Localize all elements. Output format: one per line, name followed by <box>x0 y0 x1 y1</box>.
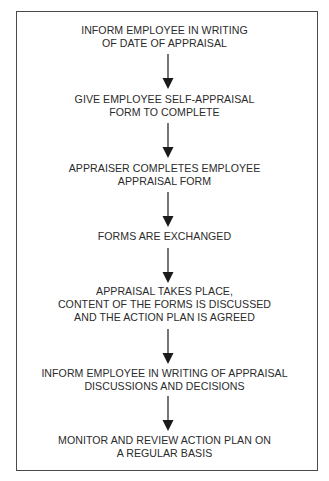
flowchart-step-inform-date: INFORM EMPLOYEE IN WRITING OF DATE OF AP… <box>0 24 329 50</box>
step-text-line: APPRAISER COMPLETES EMPLOYEE <box>0 162 329 175</box>
step-text-line: A REGULAR BASIS <box>0 447 329 460</box>
flowchart-step-monitor-review: MONITOR AND REVIEW ACTION PLAN ON A REGU… <box>0 434 329 460</box>
step-text-line: APPRAISAL TAKES PLACE, <box>0 285 329 298</box>
step-text-line: APPRAISAL FORM <box>0 175 329 188</box>
flowchart-step-self-appraisal-form: GIVE EMPLOYEE SELF-APPRAISAL FORM TO COM… <box>0 93 329 119</box>
step-text-line: INFORM EMPLOYEE IN WRITING <box>0 24 329 37</box>
step-text-line: FORMS ARE EXCHANGED <box>0 230 329 243</box>
step-text-line: MONITOR AND REVIEW ACTION PLAN ON <box>0 434 329 447</box>
step-text-line: GIVE EMPLOYEE SELF-APPRAISAL <box>0 93 329 106</box>
step-text-line: FORM TO COMPLETE <box>0 106 329 119</box>
flowchart-step-forms-exchanged: FORMS ARE EXCHANGED <box>0 230 329 243</box>
step-text-line: AND THE ACTION PLAN IS AGREED <box>0 311 329 324</box>
down-arrow-icon <box>162 54 174 89</box>
down-arrow-icon <box>162 123 174 158</box>
flowchart-step-appraisal-meeting: APPRAISAL TAKES PLACE, CONTENT OF THE FO… <box>0 285 329 325</box>
down-arrow-icon <box>162 329 174 364</box>
step-text-line: INFORM EMPLOYEE IN WRITING OF APPRAISAL <box>0 367 329 380</box>
step-text-line: DISCUSSIONS AND DECISIONS <box>0 380 329 393</box>
step-text-line: OF DATE OF APPRAISAL <box>0 37 329 50</box>
down-arrow-icon <box>162 192 174 227</box>
step-text-line: CONTENT OF THE FORMS IS DISCUSSED <box>0 298 329 311</box>
flowchart-step-inform-decisions: INFORM EMPLOYEE IN WRITING OF APPRAISAL … <box>0 367 329 393</box>
down-arrow-icon <box>162 248 174 283</box>
flowchart-step-appraiser-completes-form: APPRAISER COMPLETES EMPLOYEE APPRAISAL F… <box>0 162 329 188</box>
down-arrow-icon <box>162 396 174 431</box>
